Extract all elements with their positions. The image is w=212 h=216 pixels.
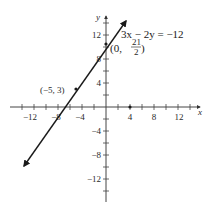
svg-text:(0,: (0, bbox=[110, 42, 122, 55]
point-label-b: (0, 21 2 ) bbox=[110, 37, 145, 57]
x-tick-label: −12 bbox=[23, 112, 37, 122]
svg-text:): ) bbox=[141, 42, 145, 55]
y-axis-label: y bbox=[95, 12, 100, 22]
coordinate-plane: −12 −8 −4 4 8 12 x 12 8 4 −4 −8 −12 y (−… bbox=[0, 0, 212, 216]
equation-label: 3x − 2y = −12 bbox=[121, 28, 184, 40]
x-tick-label: 4 bbox=[128, 112, 133, 122]
point-y-intercept bbox=[104, 42, 107, 45]
x-axis-label: x bbox=[197, 107, 202, 117]
point-label-a: (−5, 3) bbox=[40, 85, 65, 95]
y-tick-label: −12 bbox=[87, 174, 101, 184]
y-tick-label: −4 bbox=[91, 126, 101, 136]
svg-text:2: 2 bbox=[134, 47, 139, 57]
x-tick-label: 8 bbox=[152, 112, 157, 122]
y-tick-label: −8 bbox=[91, 150, 101, 160]
point-neg5-3 bbox=[74, 87, 77, 90]
x-tick-label: −4 bbox=[75, 112, 85, 122]
point-4-0 bbox=[128, 105, 131, 108]
x-tick-label: 12 bbox=[175, 112, 184, 122]
y-tick-label: 4 bbox=[97, 78, 102, 88]
y-tick-label: 12 bbox=[92, 30, 101, 40]
